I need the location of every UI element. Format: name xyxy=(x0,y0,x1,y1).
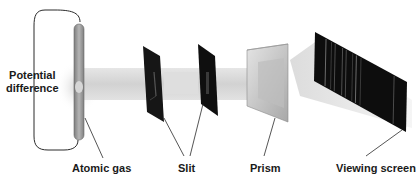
label-viewing-screen: Viewing screen xyxy=(336,162,416,175)
label-potential-line1: Potential xyxy=(6,69,59,82)
slit-opening-2 xyxy=(206,72,209,94)
leader-prism xyxy=(264,118,275,156)
label-potential-line2: difference xyxy=(6,82,59,95)
apparatus-drawing xyxy=(0,0,417,183)
collimated-beam xyxy=(164,72,198,94)
leader-atomic-gas xyxy=(85,118,103,158)
label-potential-difference: Potential difference xyxy=(6,69,59,95)
tube-glow-center xyxy=(75,81,83,93)
label-slit: Slit xyxy=(178,162,195,175)
label-atomic-gas: Atomic gas xyxy=(72,162,131,175)
slit-plate-1 xyxy=(143,46,164,122)
leader-slit-1 xyxy=(164,118,184,156)
leader-viewing-screen xyxy=(366,130,402,156)
diagram-canvas: Potential difference Atomic gas Slit Pri… xyxy=(0,0,417,183)
label-prism: Prism xyxy=(250,162,281,175)
leader-slit-2 xyxy=(190,104,203,156)
